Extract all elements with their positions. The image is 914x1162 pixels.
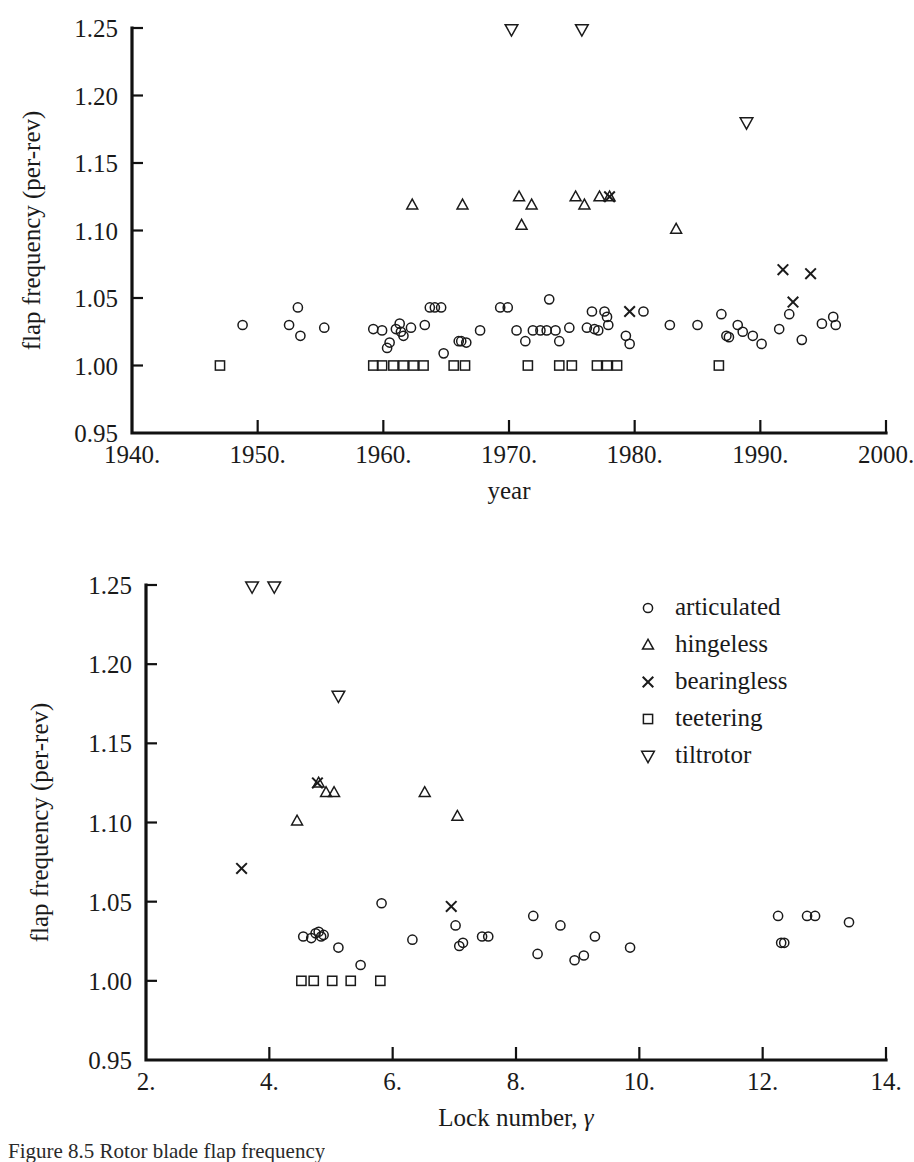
data-point-circle bbox=[296, 331, 305, 340]
data-point-circle bbox=[748, 331, 757, 340]
series-bearingless bbox=[236, 778, 456, 912]
data-point-triangle-up bbox=[407, 199, 418, 209]
data-point-circle bbox=[383, 343, 392, 352]
data-point-circle bbox=[284, 320, 293, 329]
legend: articulatedhingelessbearinglessteetering… bbox=[642, 593, 788, 768]
data-point-circle bbox=[665, 320, 674, 329]
data-point-circle bbox=[512, 326, 521, 335]
data-point-circle bbox=[238, 320, 247, 329]
data-point-circle bbox=[521, 337, 530, 346]
data-point-triangle-down bbox=[332, 691, 345, 702]
data-point-square bbox=[449, 361, 458, 370]
y-tick-label: 1.10 bbox=[88, 810, 132, 837]
data-point-circle bbox=[587, 307, 596, 316]
y-tick-label: 1.25 bbox=[88, 572, 132, 599]
data-point-circle bbox=[451, 921, 460, 930]
y-tick-label: 1.00 bbox=[74, 353, 118, 380]
series-bearingless bbox=[604, 191, 816, 316]
data-point-circle bbox=[369, 324, 378, 333]
chart-panel-lock-number: 0.951.001.051.101.151.201.252.4.6.8.10.1… bbox=[0, 560, 914, 1162]
data-point-triangle-up bbox=[292, 815, 303, 825]
data-point-circle bbox=[406, 323, 415, 332]
data-point-triangle-down bbox=[505, 25, 518, 36]
x-tick-label: 10. bbox=[624, 1068, 655, 1095]
data-point-square bbox=[714, 361, 723, 370]
data-point-circle bbox=[551, 326, 560, 335]
data-point-circle bbox=[565, 323, 574, 332]
data-point-triangle-down bbox=[246, 582, 259, 593]
y-tick-label: 1.20 bbox=[74, 83, 118, 110]
x-axis-title: year bbox=[487, 477, 531, 504]
x-tick-label: 2000. bbox=[858, 441, 914, 468]
data-point-triangle-up bbox=[643, 639, 654, 649]
x-axis-title: Lock number, γ bbox=[438, 1104, 594, 1131]
x-tick-label: 1940. bbox=[104, 441, 160, 468]
data-point-triangle-up bbox=[594, 191, 605, 201]
data-point-circle bbox=[484, 932, 493, 941]
data-point-square bbox=[215, 361, 224, 370]
series-hingeless bbox=[407, 191, 682, 233]
data-point-square bbox=[377, 361, 386, 370]
data-point-circle bbox=[817, 319, 826, 328]
data-point-circle bbox=[377, 326, 386, 335]
data-point-circle bbox=[555, 337, 564, 346]
x-tick-label: 6. bbox=[383, 1068, 402, 1095]
y-tick-label: 1.20 bbox=[88, 651, 132, 678]
data-point-circle bbox=[757, 339, 766, 348]
legend-label-teetering: teetering bbox=[675, 704, 763, 731]
data-point-circle bbox=[738, 327, 747, 336]
data-layer bbox=[215, 25, 840, 370]
data-point-circle bbox=[556, 921, 565, 930]
legend-label-hingeless: hingeless bbox=[675, 630, 768, 657]
data-point-triangle-up bbox=[570, 191, 581, 201]
data-point-square bbox=[376, 976, 385, 985]
data-point-triangle-up bbox=[419, 787, 430, 797]
axis-spines bbox=[132, 28, 886, 433]
y-tick-label: 1.15 bbox=[88, 730, 132, 757]
data-point-triangle-up bbox=[457, 199, 468, 209]
data-point-circle bbox=[320, 323, 329, 332]
data-point-square bbox=[309, 976, 318, 985]
series-tiltrotor bbox=[246, 582, 345, 703]
data-point-circle bbox=[570, 956, 579, 965]
scatter-plot-lock-number: 0.951.001.051.101.151.201.252.4.6.8.10.1… bbox=[0, 560, 914, 1162]
y-axis-title: flap frequency (per-rev) bbox=[18, 111, 46, 351]
data-point-circle bbox=[542, 326, 551, 335]
x-tick-label: 14. bbox=[870, 1068, 901, 1095]
data-point-circle bbox=[600, 307, 609, 316]
data-point-square bbox=[460, 361, 469, 370]
data-point-circle bbox=[693, 320, 702, 329]
data-point-triangle-down bbox=[576, 25, 589, 36]
series-articulated bbox=[238, 295, 840, 358]
x-tick-label: 1980. bbox=[607, 441, 663, 468]
data-point-circle bbox=[717, 310, 726, 319]
figure-root: 0.951.001.051.101.151.201.251940.1950.19… bbox=[0, 0, 914, 1162]
series-articulated bbox=[299, 899, 854, 970]
data-point-circle bbox=[579, 951, 588, 960]
data-point-circle bbox=[356, 960, 365, 969]
data-point-circle bbox=[625, 943, 634, 952]
y-tick-label: 1.05 bbox=[74, 285, 118, 312]
y-tick-label: 1.15 bbox=[74, 150, 118, 177]
data-point-cross bbox=[788, 297, 799, 308]
figure-caption: Figure 8.5 Rotor blade flap frequency bbox=[8, 1139, 325, 1162]
series-teetering bbox=[297, 976, 385, 985]
x-tick-label: 12. bbox=[747, 1068, 778, 1095]
data-point-circle bbox=[377, 899, 386, 908]
data-point-circle bbox=[775, 324, 784, 333]
data-point-triangle-up bbox=[514, 191, 525, 201]
data-point-triangle-up bbox=[516, 219, 527, 229]
data-point-circle bbox=[785, 310, 794, 319]
legend-label-tiltrotor: tiltrotor bbox=[675, 741, 752, 768]
data-point-square bbox=[369, 361, 378, 370]
data-point-triangle-up bbox=[526, 199, 537, 209]
data-point-circle bbox=[385, 338, 394, 347]
data-point-triangle-down bbox=[268, 582, 281, 593]
data-point-circle bbox=[420, 320, 429, 329]
data-point-triangle-down bbox=[740, 118, 753, 129]
chart-panel-year: 0.951.001.051.101.151.201.251940.1950.19… bbox=[0, 0, 914, 560]
data-point-square bbox=[297, 976, 306, 985]
data-point-circle bbox=[437, 303, 446, 312]
data-point-triangle-down bbox=[642, 751, 655, 762]
axis-spines bbox=[146, 585, 886, 1060]
